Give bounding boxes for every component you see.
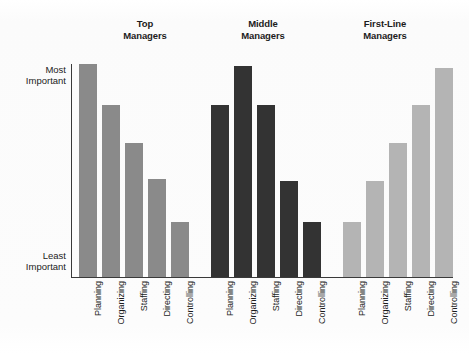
bar <box>435 68 453 277</box>
category-label: Planning <box>93 281 103 316</box>
category-label: Planning <box>357 281 367 316</box>
group-header-top-managers: Top Managers <box>90 18 200 41</box>
category-label: Organizing <box>116 281 126 325</box>
y-axis-label-least-important: Least Important <box>4 250 66 272</box>
category-label: Staffing <box>271 281 281 311</box>
bar-chart-figure: Top Managers Middle Managers First-Line … <box>0 0 469 354</box>
bar <box>343 222 361 277</box>
group-header-first-line-managers: First-Line Managers <box>330 18 440 41</box>
bar <box>234 66 252 277</box>
category-label: Staffing <box>139 281 149 311</box>
bar <box>171 222 189 277</box>
bar <box>148 179 166 277</box>
category-label: Directing <box>426 281 436 317</box>
bar <box>389 143 407 277</box>
y-axis-label-most-important: Most Important <box>4 64 66 86</box>
category-label: Controlling <box>449 281 459 324</box>
x-axis-line <box>71 277 453 278</box>
bar <box>125 143 143 277</box>
category-label: Organizing <box>380 281 390 325</box>
group-header-middle-managers: Middle Managers <box>208 18 318 41</box>
category-label: Directing <box>294 281 304 317</box>
category-label: Directing <box>162 281 172 317</box>
bar <box>211 105 229 278</box>
bar <box>79 64 97 277</box>
plot-area <box>72 64 453 277</box>
category-label: Organizing <box>248 281 258 325</box>
bar <box>303 222 321 277</box>
bar <box>366 181 384 277</box>
category-label: Controlling <box>185 281 195 324</box>
category-label: Staffing <box>403 281 413 311</box>
bar <box>102 105 120 278</box>
category-label: Planning <box>225 281 235 316</box>
bar <box>412 105 430 278</box>
bar <box>280 181 298 277</box>
bar <box>257 105 275 278</box>
category-label: Controlling <box>317 281 327 324</box>
